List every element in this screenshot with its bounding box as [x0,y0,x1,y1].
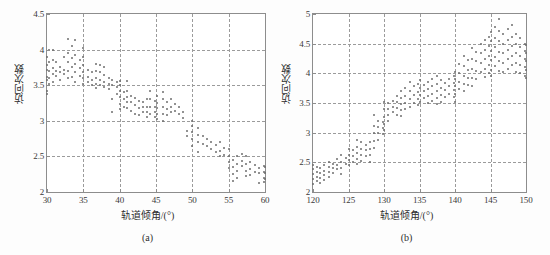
data-point [427,81,429,83]
data-point [511,36,513,38]
data-point [373,114,375,116]
y-tick-label: 2.5 [276,157,310,167]
data-point [316,171,318,173]
data-point [467,69,469,71]
data-point [142,101,144,103]
data-point [454,85,456,87]
data-point [519,55,521,57]
subplot-caption-a: (a) [10,232,285,243]
data-point [82,64,84,66]
data-point [490,59,492,61]
data-point [258,167,260,169]
data-point [245,175,247,177]
data-point [210,141,212,143]
data-point [336,158,338,160]
data-point [515,33,517,35]
data-point [236,155,238,157]
data-point [507,28,509,30]
data-point [138,100,140,102]
data-point [458,63,460,65]
data-point [525,44,527,46]
data-point [448,78,450,80]
data-point [71,57,73,59]
y-tick-label: 2.5 [10,151,44,161]
data-point [254,171,256,173]
data-point [186,135,188,137]
data-point [319,177,321,179]
data-point [507,49,509,51]
data-point [463,83,465,85]
data-point [340,167,342,169]
data-point [431,85,433,87]
data-point [111,84,113,86]
x-tick-label: 45 [136,195,176,205]
data-point [149,106,151,108]
data-point [312,183,314,185]
data-point [453,96,455,98]
data-point [264,172,266,174]
data-point [427,95,429,97]
x-tick-mark [229,189,230,192]
data-point [423,90,425,92]
y-tick-mark [313,133,316,134]
data-point [444,96,446,98]
data-point [182,117,184,119]
data-point [328,161,330,163]
data-point [490,40,492,42]
data-point [319,167,321,169]
data-point [126,96,128,98]
data-point [383,108,385,110]
y-tick-label: 3 [10,116,44,126]
data-point [448,93,450,95]
y-tick-mark [313,192,316,193]
data-point [202,135,204,137]
data-point [312,173,314,175]
plot-area-b [312,13,527,193]
x-tick-mark [83,189,84,192]
data-point [369,141,371,143]
data-point [162,106,164,108]
data-point [440,101,442,103]
data-point [319,182,321,184]
data-point [215,144,217,146]
data-point [387,120,389,122]
data-point [111,79,113,81]
data-point [134,104,136,106]
data-point [480,62,482,64]
data-point [365,155,367,157]
subplot-b: 访问次数 轨道倾角/(°) (b) 1201251301351401451502… [275,0,550,255]
data-point [427,102,429,104]
data-point [369,154,371,156]
data-point [46,56,48,58]
data-point [511,24,513,26]
data-point [340,173,342,175]
data-point [463,65,465,67]
y-tick-label: 4 [10,45,44,55]
data-point [404,108,406,110]
data-point [383,129,385,131]
data-point [490,75,492,77]
subplot-a: 访问次数 轨道倾角/(°) (a) 3035404550556022.533.5… [0,0,275,255]
data-point [458,81,460,83]
data-point [71,66,73,68]
data-point [197,127,199,129]
data-point [507,68,509,70]
data-point [170,106,172,108]
data-point [323,174,325,176]
data-point [498,70,500,72]
data-point [149,98,151,100]
x-tick-label: 50 [172,195,212,205]
data-point [471,85,473,87]
data-point [515,52,517,54]
data-point [454,93,456,95]
data-point [519,46,521,48]
y-tick-label: 5 [276,9,310,19]
data-point [232,180,234,182]
data-point [316,180,318,182]
data-point [490,31,492,33]
data-point [511,64,513,66]
x-tick-label: 135 [400,195,440,205]
gridline-vertical [83,14,84,192]
data-point [91,84,93,86]
data-point [206,138,208,140]
